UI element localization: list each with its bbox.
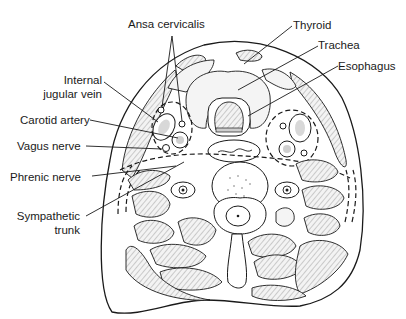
label-carotid-artery: Carotid artery	[20, 113, 90, 127]
label-phrenic-nerve: Phrenic nerve	[10, 170, 81, 184]
label-ansa-cervicalis: Ansa cervicalis	[128, 17, 205, 31]
vagus-nerve-left	[163, 145, 170, 152]
label-sympathetic-trunk: Sympathetic trunk	[10, 209, 80, 237]
label-internal-jugular-vein: Internal jugular vein	[30, 73, 102, 101]
label-trachea: Trachea	[318, 38, 360, 52]
label-vagus-nerve: Vagus nerve	[17, 139, 81, 153]
label-thyroid: Thyroid	[293, 18, 331, 32]
label-esophagus: Esophagus	[338, 59, 396, 73]
